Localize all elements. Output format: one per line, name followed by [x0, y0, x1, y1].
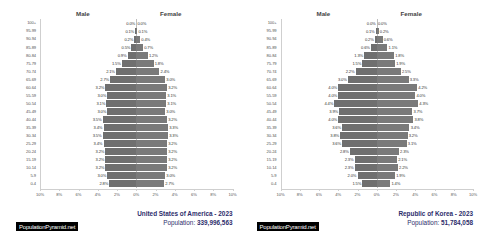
male-bar[interactable]	[109, 180, 136, 187]
male-bar[interactable]	[128, 52, 137, 59]
x-axis-tick	[175, 189, 176, 192]
female-bar[interactable]	[377, 36, 383, 43]
female-bar[interactable]	[377, 76, 409, 83]
x-axis-tick-label: 0%	[133, 192, 139, 197]
female-bar[interactable]	[377, 172, 395, 179]
age-group-label: 20-24	[255, 149, 277, 154]
male-bar[interactable]	[338, 92, 377, 99]
male-value-label: 3.5%	[93, 133, 102, 138]
female-bar[interactable]	[377, 140, 407, 147]
male-value-label: 2.0%	[348, 173, 357, 178]
male-bar[interactable]	[348, 76, 377, 83]
male-bar[interactable]	[104, 140, 137, 147]
male-bar[interactable]	[362, 60, 376, 67]
female-bar[interactable]	[377, 164, 398, 171]
male-bar[interactable]	[355, 164, 377, 171]
female-bar[interactable]	[377, 28, 379, 35]
female-bar[interactable]	[136, 156, 167, 163]
female-value-label: 3.3%	[169, 133, 178, 138]
female-bar[interactable]	[377, 124, 410, 131]
female-bar[interactable]	[136, 132, 168, 139]
female-bar[interactable]	[377, 84, 417, 91]
female-value-label: 3.2%	[168, 85, 177, 90]
male-value-label: 3.0%	[97, 173, 106, 178]
age-group-label: 35-39	[14, 125, 36, 130]
male-bar[interactable]	[355, 156, 377, 163]
male-bar[interactable]	[105, 84, 136, 91]
female-bar[interactable]	[377, 156, 397, 163]
bar-area: 3.4%3.3%	[40, 124, 233, 132]
x-axis-tick	[435, 189, 436, 192]
female-bar[interactable]	[136, 92, 166, 99]
male-bar[interactable]	[364, 52, 377, 59]
female-value-label: 3.1%	[167, 93, 176, 98]
female-bar[interactable]	[377, 60, 395, 67]
male-bar[interactable]	[103, 132, 137, 139]
x-axis-tick-label: 4%	[172, 192, 178, 197]
male-bar[interactable]	[338, 84, 377, 91]
female-bar[interactable]	[136, 108, 165, 115]
male-bar[interactable]	[122, 60, 136, 67]
age-row: 65-692.7%3.0%	[0, 75, 241, 83]
female-bar[interactable]	[136, 76, 165, 83]
female-bar[interactable]	[377, 92, 416, 99]
female-value-label: 3.2%	[168, 141, 177, 146]
age-row: 5-93.0%3.0%	[0, 172, 241, 180]
male-bar[interactable]	[350, 148, 377, 155]
female-bar[interactable]	[136, 44, 143, 51]
male-bar[interactable]	[107, 108, 136, 115]
female-bar[interactable]	[136, 124, 168, 131]
female-bar[interactable]	[136, 28, 137, 35]
x-axis-tick	[40, 189, 41, 192]
female-bar[interactable]	[136, 148, 167, 155]
populationpyramid-badge[interactable]: PopulationPyramid.net	[257, 222, 319, 231]
male-bar[interactable]	[358, 172, 377, 179]
female-bar[interactable]	[377, 148, 399, 155]
male-bar[interactable]	[339, 108, 377, 115]
male-bar[interactable]	[105, 148, 136, 155]
female-value-label: 3.0%	[166, 109, 175, 114]
male-bar[interactable]	[103, 116, 137, 123]
age-row: 25-293.6%3.1%	[241, 140, 481, 148]
age-row: 0-41.5%1.4%	[241, 180, 481, 188]
male-bar[interactable]	[342, 140, 377, 147]
male-bar[interactable]	[110, 76, 136, 83]
male-bar[interactable]	[107, 172, 136, 179]
female-bar[interactable]	[136, 140, 167, 147]
male-bar[interactable]	[107, 92, 136, 99]
female-bar[interactable]	[377, 132, 408, 139]
female-bar[interactable]	[377, 180, 390, 187]
female-bar[interactable]	[136, 36, 140, 43]
male-bar[interactable]	[105, 164, 136, 171]
female-bar[interactable]	[136, 52, 148, 59]
male-bar[interactable]	[342, 124, 377, 131]
female-bar[interactable]	[136, 84, 167, 91]
female-bar[interactable]	[136, 172, 165, 179]
female-bar[interactable]	[136, 60, 153, 67]
male-bar[interactable]	[334, 100, 376, 107]
chart-caption-usa: United States of America - 2023 Populati…	[137, 209, 232, 227]
female-bar[interactable]	[136, 180, 164, 187]
male-bar[interactable]	[362, 180, 376, 187]
female-bar[interactable]	[136, 100, 166, 107]
female-bar[interactable]	[377, 68, 401, 75]
female-bar[interactable]	[377, 100, 418, 107]
populationpyramid-badge[interactable]: PopulationPyramid.net	[16, 222, 78, 231]
male-bar[interactable]	[104, 124, 137, 131]
male-bar[interactable]	[105, 156, 136, 163]
female-bar[interactable]	[136, 116, 167, 123]
age-group-label: 45-49	[255, 109, 277, 114]
male-bar[interactable]	[356, 68, 377, 75]
female-value-label: 3.2%	[168, 117, 177, 122]
female-bar[interactable]	[377, 52, 394, 59]
male-bar[interactable]	[340, 132, 377, 139]
female-bar[interactable]	[377, 116, 414, 123]
male-value-label: 3.2%	[96, 165, 105, 170]
male-bar[interactable]	[116, 68, 136, 75]
female-bar[interactable]	[136, 164, 167, 171]
male-bar[interactable]	[338, 116, 377, 123]
male-bar[interactable]	[106, 100, 136, 107]
female-bar[interactable]	[136, 68, 159, 75]
female-bar[interactable]	[377, 108, 413, 115]
female-bar[interactable]	[377, 44, 388, 51]
